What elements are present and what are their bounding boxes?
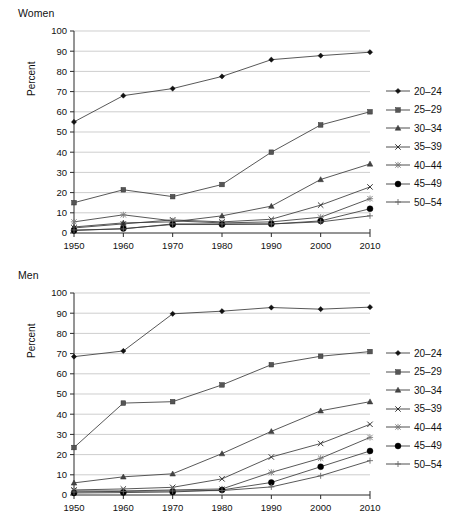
marker-cross <box>318 441 323 446</box>
y-tick-label: 50 <box>56 126 67 137</box>
legend-marker-star-icon <box>385 159 411 171</box>
marker-diamond <box>318 53 323 58</box>
marker-square <box>269 362 274 367</box>
chart-panel-women: Women Percent 01020304050607080901001950… <box>0 0 453 262</box>
marker-square <box>170 194 175 199</box>
marker-square <box>121 401 126 406</box>
marker-square <box>368 349 373 354</box>
x-tick-label: 2000 <box>310 502 331 513</box>
legend-item-40-44[interactable]: 40–44 <box>385 156 442 175</box>
x-tick-label: 1970 <box>162 240 183 251</box>
marker-diamond <box>71 119 76 124</box>
marker-triangle <box>367 399 373 404</box>
y-tick-label: 30 <box>56 429 67 440</box>
x-tick-label: 1950 <box>63 240 84 251</box>
marker-square <box>72 200 77 205</box>
marker-plus <box>395 461 401 467</box>
legend-label: 50–54 <box>414 459 442 470</box>
legend-marker-square-icon <box>385 366 411 378</box>
marker-square <box>368 110 373 115</box>
legend-item-50-54[interactable]: 50–54 <box>385 455 442 474</box>
legend-label: 35–39 <box>414 141 442 152</box>
legend-item-25-29[interactable]: 25–29 <box>385 101 442 120</box>
series-line-25–29 <box>74 352 370 448</box>
legend-marker-triangle-icon <box>385 122 411 134</box>
x-tick-label: 2000 <box>310 240 331 251</box>
marker-circle <box>395 443 401 449</box>
y-tick-label: 90 <box>56 308 67 319</box>
marker-square <box>220 182 225 187</box>
x-tick-label: 1950 <box>63 502 84 513</box>
y-tick-label: 70 <box>56 86 67 97</box>
x-tick-label: 2010 <box>359 502 380 513</box>
marker-cross <box>318 202 323 207</box>
legend-marker-diamond-icon <box>385 347 411 359</box>
legend-item-35-39[interactable]: 35–39 <box>385 400 442 419</box>
marker-square <box>269 150 274 155</box>
marker-star <box>120 212 126 218</box>
series-line-40–44 <box>74 437 370 491</box>
legend-item-30-34[interactable]: 30–34 <box>385 381 442 400</box>
legend-label: 25–29 <box>414 104 442 115</box>
marker-square <box>396 107 401 112</box>
y-tick-label: 10 <box>56 469 67 480</box>
marker-triangle <box>219 451 225 456</box>
y-tick-label: 80 <box>56 66 67 77</box>
x-tick-label: 1980 <box>211 502 232 513</box>
marker-square <box>170 399 175 404</box>
y-tick-label: 50 <box>56 388 67 399</box>
marker-plus <box>367 213 373 219</box>
y-tick-label: 60 <box>56 106 67 117</box>
marker-circle <box>318 464 324 470</box>
marker-square <box>396 369 401 374</box>
legend-item-20-24[interactable]: 20–24 <box>385 344 442 363</box>
marker-diamond <box>367 305 372 310</box>
y-tick-label: 60 <box>56 368 67 379</box>
marker-diamond <box>269 57 274 62</box>
legend-item-50-54[interactable]: 50–54 <box>385 193 442 212</box>
marker-cross <box>367 184 372 189</box>
x-tick-label: 1960 <box>113 240 134 251</box>
marker-triangle <box>367 161 373 166</box>
legend-item-20-24[interactable]: 20–24 <box>385 82 442 101</box>
legend-item-25-29[interactable]: 25–29 <box>385 363 442 382</box>
marker-diamond <box>71 354 76 359</box>
series-line-20–24 <box>74 52 370 122</box>
legend-marker-plus-icon <box>385 196 411 208</box>
legend-label: 40–44 <box>414 422 442 433</box>
marker-triangle <box>269 429 275 434</box>
legend-marker-plus-icon <box>385 458 411 470</box>
marker-triangle <box>269 203 275 208</box>
x-tick-label: 1990 <box>261 502 282 513</box>
y-tick-label: 90 <box>56 46 67 57</box>
legend-men: 20–2425–2930–3435–3940–4445–4950–54 <box>385 344 442 474</box>
marker-diamond <box>318 307 323 312</box>
marker-star <box>367 434 373 440</box>
y-tick-label: 30 <box>56 167 67 178</box>
legend-women: 20–2425–2930–3435–3940–4445–4950–54 <box>385 82 442 212</box>
marker-star <box>367 196 373 202</box>
legend-item-45-49[interactable]: 45–49 <box>385 175 442 194</box>
marker-star <box>268 469 274 475</box>
legend-marker-circle-icon <box>385 178 411 190</box>
chart-panel-men: Men Percent 0102030405060708090100195019… <box>0 262 453 524</box>
legend-label: 20–24 <box>414 86 442 97</box>
y-tick-label: 100 <box>51 25 67 36</box>
marker-square <box>318 123 323 128</box>
marker-diamond <box>395 351 400 356</box>
legend-label: 30–34 <box>414 123 442 134</box>
marker-circle <box>367 448 373 454</box>
legend-item-35-39[interactable]: 35–39 <box>385 138 442 157</box>
legend-label: 50–54 <box>414 197 442 208</box>
x-tick-label: 1990 <box>261 240 282 251</box>
legend-item-45-49[interactable]: 45–49 <box>385 437 442 456</box>
legend-marker-square-icon <box>385 104 411 116</box>
legend-label: 45–49 <box>414 440 442 451</box>
marker-diamond <box>219 74 224 79</box>
marker-square <box>72 445 77 450</box>
legend-item-40-44[interactable]: 40–44 <box>385 418 442 437</box>
legend-label: 45–49 <box>414 178 442 189</box>
legend-item-30-34[interactable]: 30–34 <box>385 119 442 138</box>
marker-diamond <box>121 93 126 98</box>
legend-label: 40–44 <box>414 160 442 171</box>
